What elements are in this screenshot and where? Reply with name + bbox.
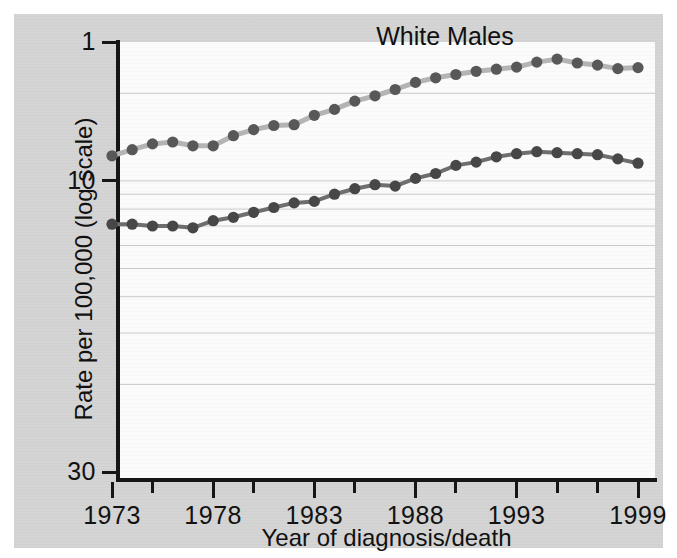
data-point: [309, 110, 320, 121]
data-point: [106, 219, 117, 230]
series-incidence: [106, 54, 643, 162]
data-point: [531, 57, 542, 68]
data-point: [612, 153, 623, 164]
data-point: [187, 140, 198, 151]
data-point: [390, 181, 401, 192]
data-point: [167, 220, 178, 231]
data-point: [450, 160, 461, 171]
data-point: [552, 147, 563, 158]
data-point: [228, 212, 239, 223]
data-point: [531, 146, 542, 157]
data-point: [268, 120, 279, 131]
data-point: [349, 96, 360, 107]
data-point: [309, 196, 320, 207]
series-mortality: [106, 146, 643, 233]
data-point: [268, 202, 279, 213]
data-point: [632, 158, 643, 169]
data-point: [187, 222, 198, 233]
data-point: [592, 60, 603, 71]
data-point: [369, 90, 380, 101]
figure-root: 30101197319781983198819931999 White Male…: [0, 0, 677, 558]
data-point: [127, 219, 138, 230]
data-point: [632, 62, 643, 73]
data-point: [511, 62, 522, 73]
data-point: [572, 148, 583, 159]
data-point: [471, 66, 482, 77]
data-point: [248, 124, 259, 135]
data-point: [612, 63, 623, 74]
plot-title: White Males: [330, 22, 560, 51]
data-point: [289, 119, 300, 130]
data-point: [127, 144, 138, 155]
data-point: [147, 138, 158, 149]
data-point: [208, 140, 219, 151]
data-point: [410, 77, 421, 88]
x-axis-title: Year of diagnosis/death: [118, 524, 655, 552]
data-point: [106, 150, 117, 161]
data-point: [147, 220, 158, 231]
data-point: [430, 168, 441, 179]
data-point: [248, 207, 259, 218]
data-point: [572, 57, 583, 68]
data-point: [511, 148, 522, 159]
data-point: [228, 130, 239, 141]
data-point: [430, 72, 441, 83]
data-point: [369, 179, 380, 190]
data-point: [329, 104, 340, 115]
data-point: [410, 173, 421, 184]
data-point: [552, 54, 563, 65]
data-point: [491, 64, 502, 75]
data-point: [349, 183, 360, 194]
data-point: [390, 84, 401, 95]
data-point: [167, 136, 178, 147]
data-point: [592, 149, 603, 160]
data-point: [471, 157, 482, 168]
data-layer: [0, 0, 677, 558]
data-point: [491, 151, 502, 162]
data-point: [329, 189, 340, 200]
data-point: [289, 197, 300, 208]
data-point: [450, 69, 461, 80]
y-axis-title: Rate per 100,000 (log scale): [70, 59, 98, 479]
data-point: [208, 215, 219, 226]
